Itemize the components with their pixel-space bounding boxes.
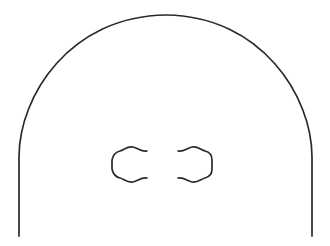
canvas-background xyxy=(0,0,330,246)
line-drawing xyxy=(0,0,330,246)
drawing-canvas xyxy=(0,0,330,246)
